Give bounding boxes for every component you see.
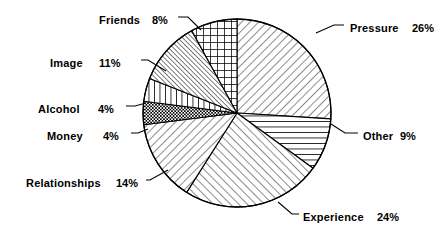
pie-label-money: Money bbox=[47, 130, 84, 142]
pie-value-other: 9% bbox=[400, 130, 416, 142]
leader-line-pressure bbox=[316, 25, 344, 33]
pie-label-experience: Experience bbox=[303, 211, 364, 223]
pie-value-pressure: 26% bbox=[412, 22, 434, 34]
leader-line-other bbox=[331, 124, 358, 133]
pie-label-alcohol: Alcohol bbox=[38, 103, 80, 115]
pie-chart-figure: Pressure26%Other9%Experience24%Relations… bbox=[0, 0, 443, 232]
pie-value-friends: 8% bbox=[152, 14, 168, 26]
pie-value-image: 11% bbox=[99, 57, 121, 69]
pie-value-relationships: 14% bbox=[116, 177, 138, 189]
pie-slice-pressure[interactable] bbox=[237, 19, 331, 119]
pie-slices bbox=[143, 19, 331, 207]
pie-label-friends: Friends bbox=[99, 14, 140, 26]
pie-label-pressure: Pressure bbox=[350, 22, 399, 34]
leader-line-relationships bbox=[146, 170, 168, 180]
pie-label-other: Other bbox=[363, 130, 394, 142]
pie-value-money: 4% bbox=[103, 130, 119, 142]
leader-line-experience bbox=[278, 202, 299, 214]
pie-value-alcohol: 4% bbox=[98, 103, 114, 115]
pie-chart-svg: Pressure26%Other9%Experience24%Relations… bbox=[0, 0, 443, 232]
pie-label-image: Image bbox=[50, 57, 83, 69]
pie-label-relationships: Relationships bbox=[26, 177, 101, 189]
pie-value-experience: 24% bbox=[377, 211, 399, 223]
